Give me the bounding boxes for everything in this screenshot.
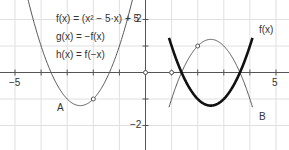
definition-g: g(x) = −f(x) [56, 32, 105, 42]
function-graph: f(x) = (x² − 5·x) + 5 g(x) = −f(x) h(x) … [0, 0, 289, 150]
label-f: f(x) [259, 25, 273, 35]
definition-h: h(x) = f(−x) [56, 50, 105, 60]
graph-point [196, 44, 200, 48]
graph-point [170, 71, 174, 75]
graph-point [144, 71, 148, 75]
curve-f [169, 38, 253, 106]
graph-point [91, 97, 95, 101]
definition-f: f(x) = (x² − 5·x) + 5 [56, 14, 139, 24]
axes [0, 0, 289, 150]
label-b: B [259, 112, 266, 122]
tick-y-bottom: −2 [130, 120, 141, 130]
tick-x-min: −5 [9, 78, 20, 88]
graph-canvas [0, 0, 289, 150]
tick-y-top: 2 [136, 14, 142, 24]
grid-lines [0, 0, 289, 150]
label-a: A [57, 103, 64, 113]
tick-x-max: 5 [272, 78, 278, 88]
